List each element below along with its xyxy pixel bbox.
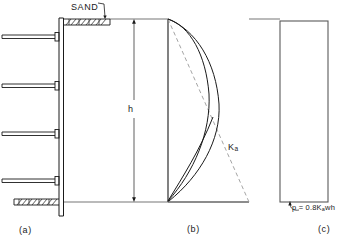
panel-a-braced-wall: [2, 3, 110, 216]
strut-2: [2, 82, 59, 91]
design-pressure-formula: p = 0.8Kawh: [292, 203, 335, 212]
sheet-pile-wall: [59, 18, 64, 216]
strut-1: [2, 33, 59, 42]
strut-4: [2, 177, 59, 186]
excavation-base-hatching: [14, 199, 59, 205]
measured-pressure-curve-1: [168, 19, 219, 201]
formula-prefix: p = 0.8K: [292, 203, 322, 212]
height-dimension-h: [64, 19, 168, 202]
caption-panel-b: (b): [187, 224, 200, 234]
measured-pressure-curve-lower: [168, 117, 213, 201]
design-pressure-rectangle: [280, 21, 328, 202]
caption-panel-c: (c): [318, 224, 330, 234]
sand-leader-line: [98, 3, 105, 17]
sand-label: SAND: [71, 2, 98, 12]
formula-suffix: wh: [325, 203, 335, 212]
ground-surface-hatching: [64, 19, 110, 25]
ka-coefficient-label: Ka: [228, 142, 239, 152]
strut-3: [2, 130, 59, 139]
measured-pressure-curve-2: [168, 19, 209, 201]
ka-symbol: K: [228, 142, 235, 152]
caption-panel-a: (a): [19, 225, 32, 235]
panel-c-design-diagram: [249, 19, 328, 210]
ka-subscript: a: [235, 145, 239, 152]
height-dimension-label: h: [128, 104, 134, 114]
panel-b-pressure-diagram: [168, 19, 249, 202]
